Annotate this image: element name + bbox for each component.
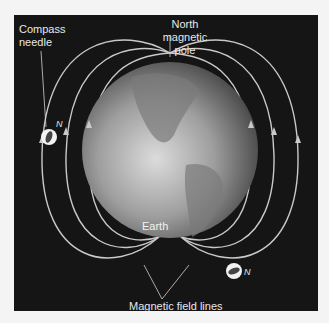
- field-lines-label: Magnetic field lines: [129, 300, 223, 311]
- south-america: [185, 164, 224, 237]
- compass-needle-label: Compass needle: [19, 23, 65, 49]
- diagram-frame: N N Compass needle North magnetic pole E…: [14, 15, 318, 311]
- earth-label: Earth: [142, 220, 168, 233]
- svg-text:N: N: [244, 267, 251, 277]
- north-pole-label: North magnetic pole: [154, 18, 216, 57]
- compass-needle-icon: N: [226, 263, 251, 279]
- svg-text:N: N: [56, 119, 63, 129]
- field-diagram: N N: [14, 15, 318, 311]
